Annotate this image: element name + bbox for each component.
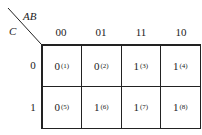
cell-value: 0 (54, 60, 60, 72)
kmap-cell: 1(4) (160, 45, 201, 88)
kmap-grid: 0(1) 0(2) 1(3) 1(4) 0(5) 1(6) 1(7) 1(8) (41, 44, 201, 129)
kmap-cell: 0(2) (81, 45, 122, 88)
row-header-0: 0 (28, 59, 38, 71)
cell-value: 1 (173, 101, 179, 113)
cell-index: (6) (100, 103, 108, 111)
row-header-1: 1 (28, 101, 38, 113)
cell-index: (8) (179, 103, 187, 111)
column-header-01: 01 (81, 26, 121, 38)
cell-index: (7) (140, 103, 148, 111)
row-variable-label: C (9, 25, 16, 37)
kmap-cell: 1(7) (121, 86, 162, 129)
column-variable-label: AB (23, 10, 36, 22)
kmap-cell: 1(6) (81, 86, 122, 129)
cell-index: (4) (179, 62, 187, 70)
cell-value: 0 (54, 101, 60, 113)
column-header-00: 00 (41, 26, 81, 38)
cell-value: 1 (94, 101, 100, 113)
kmap-cell: 0(1) (42, 45, 83, 88)
cell-value: 0 (94, 60, 100, 72)
column-header-11: 11 (121, 26, 161, 38)
kmap-cell: 1(8) (160, 86, 201, 129)
kmap-cell: 0(5) (42, 86, 83, 129)
cell-value: 1 (133, 60, 139, 72)
cell-index: (2) (100, 62, 108, 70)
cell-value: 1 (133, 101, 139, 113)
cell-index: (1) (61, 62, 69, 70)
cell-index: (5) (61, 103, 69, 111)
cell-value: 1 (173, 60, 179, 72)
column-header-10: 10 (161, 26, 201, 38)
kmap-cell: 1(3) (121, 45, 162, 88)
cell-index: (3) (140, 62, 148, 70)
